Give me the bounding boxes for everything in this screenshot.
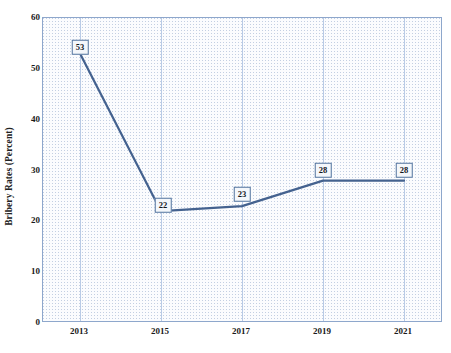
y-tick-label: 10	[16, 267, 40, 276]
y-tick-label: 50	[16, 63, 40, 72]
line-chart: Bribery Rates (Percent) 60 50 40 30 20 1…	[0, 0, 451, 353]
y-tick-label: 40	[16, 114, 40, 123]
x-tick-label-2013: 2013	[70, 326, 88, 336]
data-label-2017: 23	[234, 187, 251, 202]
y-tick-label: 60	[16, 13, 40, 22]
x-tick-label-2015: 2015	[151, 326, 169, 336]
data-series-line	[43, 18, 442, 322]
data-label-2019: 28	[315, 163, 332, 178]
y-axis-tick-labels: 60 50 40 30 20 10 0	[16, 0, 40, 353]
x-tick-label-2017: 2017	[232, 326, 250, 336]
data-label-2013: 53	[72, 40, 89, 55]
y-tick-label: 30	[16, 165, 40, 174]
plot-area: 53 22 23 28 28	[42, 17, 442, 322]
y-tick-label: 20	[16, 216, 40, 225]
y-tick-label: 0	[16, 318, 40, 327]
x-axis-tick-labels: 2013 2015 2017 2019 2021	[42, 326, 442, 346]
data-label-2015: 22	[155, 198, 172, 213]
x-tick-label-2019: 2019	[313, 326, 331, 336]
x-tick-label-2021: 2021	[394, 326, 412, 336]
data-label-2021: 28	[396, 163, 413, 178]
